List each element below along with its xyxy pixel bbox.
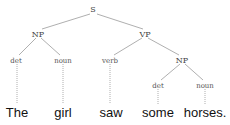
edge-np-noun	[41, 38, 60, 55]
edge-s-np	[42, 14, 90, 29]
node-vp: VP	[138, 30, 151, 39]
edge-vp-np	[148, 38, 179, 55]
edge-np-det	[19, 38, 36, 55]
node-det-1: det	[10, 57, 22, 65]
edge-np2-det	[161, 64, 180, 80]
parse-tree-diagram: S NP VP NP det noun verb det noun The gi…	[0, 0, 230, 125]
word-the: The	[6, 105, 28, 120]
node-np-object: NP	[176, 56, 189, 65]
word-saw: saw	[99, 105, 123, 120]
edge-np2-noun	[185, 64, 203, 80]
word-girl: girl	[54, 105, 71, 120]
word-some: some	[142, 105, 174, 120]
edge-vp-verb	[114, 38, 142, 55]
node-s: S	[90, 5, 95, 14]
node-np-subject: NP	[32, 30, 45, 39]
node-det-2: det	[152, 82, 164, 90]
node-verb: verb	[101, 57, 118, 65]
word-horses: horses.	[184, 105, 227, 120]
node-noun-1: noun	[54, 57, 72, 65]
node-noun-2: noun	[196, 82, 214, 90]
edge-s-vp	[97, 14, 143, 29]
